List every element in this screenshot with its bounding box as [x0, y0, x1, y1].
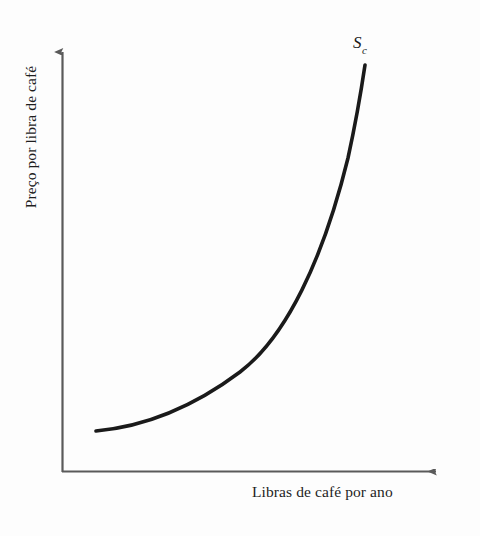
supply-curve: [96, 65, 365, 431]
y-axis-label: Preço por libra de café: [22, 22, 44, 252]
x-axis-label: Libras de café por ano: [252, 483, 393, 501]
curve-subscript: c: [362, 44, 367, 56]
chart-canvas: [0, 0, 480, 536]
supply-curve-label: Sc: [353, 33, 366, 54]
supply-curve-figure: Preço por libra de café Libras de café p…: [0, 0, 480, 536]
curve-symbol: S: [353, 33, 362, 52]
